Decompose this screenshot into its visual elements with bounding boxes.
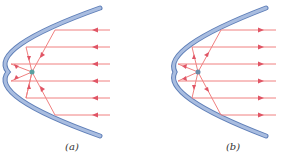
focus-point <box>196 70 201 75</box>
panel-b: (b) <box>142 0 284 159</box>
focus-point <box>30 70 35 75</box>
panel-a-label: (a) <box>57 141 87 152</box>
panel-a: (a) <box>0 0 142 159</box>
mirror-surface <box>174 8 266 136</box>
panel-b-label: (b) <box>218 141 248 152</box>
mirror-surface <box>5 8 100 136</box>
parabolic-mirror-converging-diagram <box>0 0 142 159</box>
parabolic-mirror-diverging-diagram <box>142 0 284 159</box>
